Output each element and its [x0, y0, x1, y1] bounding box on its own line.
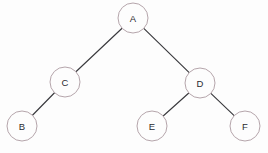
tree-edge-a-d [144, 28, 189, 72]
tree-node-b[interactable]: B [7, 111, 37, 141]
tree-diagram-canvas: ACDBEF [0, 0, 268, 153]
tree-diagram-svg: ACDBEF [0, 0, 268, 153]
tree-node-f[interactable]: F [230, 111, 260, 141]
tree-node-d[interactable]: D [185, 68, 215, 98]
tree-node-a[interactable]: A [118, 3, 148, 33]
tree-node-e[interactable]: E [137, 111, 167, 141]
tree-node-c[interactable]: C [50, 67, 80, 97]
node-label-c: C [61, 77, 68, 88]
node-label-f: F [242, 121, 248, 132]
tree-edge-c-b [32, 93, 54, 116]
node-label-b: B [19, 121, 26, 132]
tree-edge-d-e [163, 93, 189, 116]
tree-edge-a-c [76, 28, 122, 71]
node-layer: ACDBEF [7, 3, 260, 141]
node-label-d: D [196, 78, 203, 89]
node-label-e: E [149, 121, 156, 132]
node-label-a: A [130, 13, 137, 24]
tree-edge-d-f [211, 93, 234, 115]
